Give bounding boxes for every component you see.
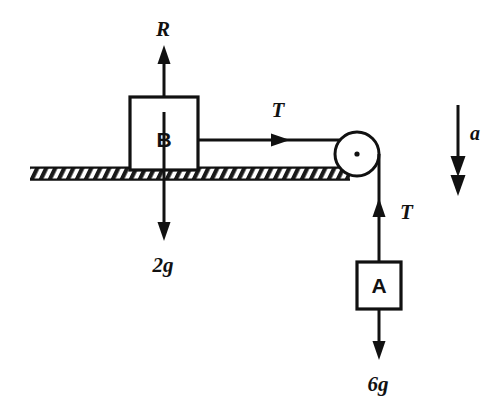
tension-horizontal-label: T [272, 98, 286, 122]
normal-reaction-arrow: R [155, 17, 171, 97]
block-a: A [357, 262, 401, 309]
acceleration-arrowhead-lower [451, 175, 466, 196]
weight-a-arrow: 6g [368, 309, 389, 396]
acceleration-label: a [470, 122, 480, 144]
pulley-center-dot [354, 151, 359, 156]
weight-a-label: 6g [368, 372, 389, 396]
tension-vertical-arrow: T [373, 154, 415, 262]
diagram-canvas: B R 2g T T [0, 0, 493, 411]
pulley [335, 132, 379, 176]
force-diagram: B R 2g T T [0, 0, 493, 411]
weight-b-label: 2g [152, 253, 174, 277]
normal-reaction-label: R [155, 17, 170, 41]
tension-horizontal-arrow: T [197, 98, 357, 147]
tension-vertical-label: T [400, 200, 414, 224]
block-a-label: A [371, 274, 386, 297]
acceleration-arrowhead-upper [451, 156, 466, 177]
acceleration-indicator: a [451, 105, 481, 196]
